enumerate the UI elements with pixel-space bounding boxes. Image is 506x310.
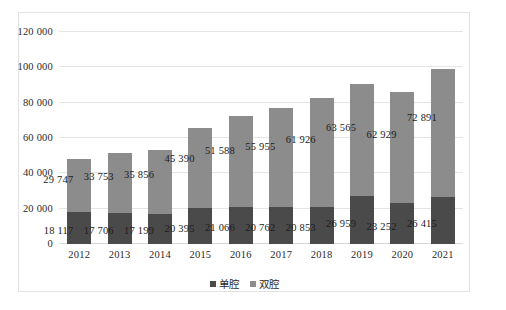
bar-segment-shuangqiang[interactable]: [188, 128, 212, 208]
legend-label: 单腔: [219, 276, 239, 291]
bar-segment-shuangqiang[interactable]: [310, 98, 334, 207]
bar-segment-shuangqiang[interactable]: [269, 108, 293, 207]
x-axis-tick-label: 2014: [148, 249, 172, 260]
data-label-shuangqiang: 45 390: [165, 153, 196, 164]
data-label-shuangqiang: 61 926: [286, 134, 317, 145]
chart-frame: 020 00040 00060 00080 000100 000120 000 …: [18, 12, 470, 292]
bar-segment-shuangqiang[interactable]: [108, 153, 132, 213]
data-label-danqiang: 20 853: [286, 222, 317, 233]
legend-item[interactable]: 双腔: [250, 276, 279, 291]
data-label-danqiang: 20 395: [165, 222, 196, 233]
x-axis-tick-label: 2019: [350, 249, 374, 260]
data-label-shuangqiang: 62 929: [367, 128, 398, 139]
data-label-danqiang: 18 117: [44, 224, 75, 235]
data-label-danqiang: 17 706: [84, 224, 115, 235]
data-label-shuangqiang: 51 588: [205, 145, 236, 156]
bar-segment-shuangqiang[interactable]: [229, 116, 253, 207]
y-axis-tick-label: 80 000: [23, 96, 53, 107]
data-label-shuangqiang: 33 753: [84, 170, 115, 181]
x-axis-tick-label: 2015: [188, 249, 212, 260]
legend-swatch-icon: [210, 281, 216, 287]
data-label-danqiang: 21 066: [205, 222, 236, 233]
chart-legend: 单腔双腔: [19, 276, 469, 291]
bar-segment-shuangqiang[interactable]: [431, 69, 455, 198]
data-label-danqiang: 23 252: [367, 220, 398, 231]
x-axis-tick-label: 2021: [431, 249, 455, 260]
x-axis-tick-label: 2018: [310, 249, 334, 260]
legend-swatch-icon: [250, 281, 256, 287]
x-axis-tick-label: 2020: [390, 249, 414, 260]
data-label-shuangqiang: 72 891: [407, 112, 438, 123]
chart-screenshot: 020 00040 00060 00080 000100 000120 000 …: [0, 0, 506, 310]
bar-segment-shuangqiang[interactable]: [67, 159, 91, 212]
legend-label: 双腔: [259, 276, 279, 291]
data-label-shuangqiang: 35 856: [124, 169, 155, 180]
data-label-shuangqiang: 55 955: [245, 141, 276, 152]
bar-segment-shuangqiang[interactable]: [390, 92, 414, 203]
y-axis-tick-label: 60 000: [23, 132, 53, 143]
x-axis-tick-label: 2012: [67, 249, 91, 260]
data-label-danqiang: 26 415: [407, 218, 438, 229]
x-axis-tick-label: 2017: [269, 249, 293, 260]
bar-segment-shuangqiang[interactable]: [350, 84, 374, 196]
plot-area: 020 00040 00060 00080 000100 000120 000 …: [59, 32, 463, 244]
data-label-shuangqiang: 29 747: [43, 174, 74, 185]
x-axis-tick-label: 2013: [108, 249, 132, 260]
data-label-danqiang: 17 199: [124, 225, 155, 236]
y-axis-tick-label: 0: [48, 238, 53, 249]
x-axis-tick-label: 2016: [229, 249, 253, 260]
legend-item[interactable]: 单腔: [210, 276, 239, 291]
data-label-shuangqiang: 63 565: [326, 121, 357, 132]
data-label-danqiang: 26 959: [326, 217, 357, 228]
bar-series-container: 201218 11729 747201317 70633 753201417 1…: [59, 32, 463, 244]
y-axis-tick-label: 120 000: [17, 26, 53, 37]
data-label-danqiang: 20 762: [245, 222, 276, 233]
y-axis-tick-label: 20 000: [23, 202, 53, 213]
y-axis-tick-label: 100 000: [17, 61, 53, 72]
